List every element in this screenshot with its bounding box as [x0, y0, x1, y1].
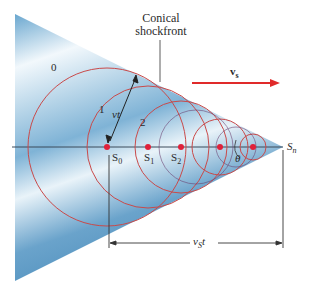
distance-tail: t	[202, 235, 205, 247]
source-s1	[145, 144, 151, 150]
end-label-sn: Sn	[287, 141, 297, 155]
source-label-s1: S1	[144, 152, 154, 166]
source-s2	[178, 144, 184, 150]
source-s4	[250, 144, 256, 150]
sn-sub: n	[293, 146, 297, 155]
wavefront-label-2: 2	[140, 117, 146, 128]
shockfront-title: Conical shockfront	[128, 12, 194, 38]
wavefront-label-1: 1	[99, 104, 105, 115]
velocity-arrow	[192, 79, 280, 87]
radius-label: vt	[112, 109, 120, 120]
wavefront-label-0: 0	[51, 62, 57, 73]
shockwave-diagram	[0, 0, 310, 284]
distance-label: vSt	[193, 236, 205, 250]
s1-sub: 1	[150, 157, 154, 166]
velocity-label: vs	[230, 66, 239, 80]
s2-sub: 2	[177, 157, 181, 166]
source-label-s0: S0	[112, 152, 122, 166]
title-line-2: shockfront	[128, 25, 194, 38]
s0-sub: 0	[118, 157, 122, 166]
velocity-sub: s	[236, 71, 239, 80]
source-s0	[104, 144, 110, 150]
theta-label: θ	[235, 153, 240, 164]
source-s3	[217, 144, 223, 150]
source-label-s2: S2	[171, 152, 181, 166]
